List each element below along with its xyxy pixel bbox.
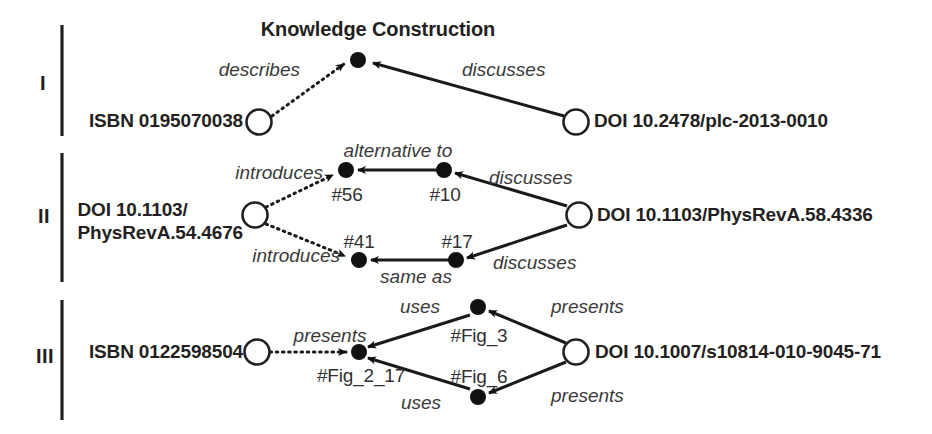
node-label-doi-plc-2013-0010: DOI 10.2478/plc-2013-0010 — [594, 110, 828, 131]
node-label-line-2: PhysRevA.54.4676 — [77, 221, 243, 244]
statement-dot-kc — [350, 52, 366, 68]
edge-label-discusses-upper: discusses — [489, 167, 572, 188]
node-label-doi-s10814-010-9045-71: DOI 10.1007/s10814-010-9045-71 — [595, 341, 881, 362]
statement-label-fig-3: #Fig_3 — [451, 325, 508, 346]
resource-node-isbn-0122598504 — [245, 340, 270, 365]
statement-dot-fig-3 — [470, 299, 486, 315]
resource-node-doi-s10814-010-9045-71 — [564, 340, 589, 365]
node-label-doi-physreva-58-4336: DOI 10.1103/PhysRevA.58.4336 — [597, 204, 873, 225]
edge-label-introduces-upper: introduces — [235, 162, 323, 183]
edge-label-same-as: same as — [380, 266, 452, 287]
node-label-line-1: DOI 10.1103/ — [77, 198, 243, 221]
statement-dot-fig-6 — [470, 389, 486, 405]
statement-dot-41 — [351, 252, 367, 268]
resource-node-doi-plc-2013-0010 — [564, 110, 589, 135]
row-numeral-3: III — [36, 345, 54, 367]
statement-label-56: #56 — [331, 184, 362, 205]
statement-label-fig-2-17: #Fig_2_17 — [317, 365, 405, 386]
edge-label-discusses-1: discusses — [462, 59, 545, 80]
statement-label-fig-6: #Fig_6 — [451, 366, 508, 387]
statement-label-17: #17 — [441, 231, 472, 252]
statement-dot-56 — [338, 162, 354, 178]
node-label-doi-physreva-54-4676: DOI 10.1103/ PhysRevA.54.4676 — [77, 198, 243, 244]
node-label-isbn-0195070038: ISBN 0195070038 — [89, 110, 243, 131]
edge-label-introduces-lower: introduces — [252, 245, 340, 266]
row-numeral-2: II — [38, 205, 50, 227]
edge-label-presents-upper: presents — [551, 296, 624, 317]
statement-dot-10 — [436, 162, 452, 178]
edge-label-discusses-lower: discusses — [493, 252, 576, 273]
statement-label-41: #41 — [343, 231, 374, 252]
node-label-isbn-0122598504: ISBN 0122598504 — [89, 341, 243, 362]
edge-label-presents-dotted: presents — [294, 325, 367, 346]
resource-node-doi-physreva-58-4336 — [567, 203, 592, 228]
resource-node-isbn-0195070038 — [247, 110, 272, 135]
row-numeral-1: I — [40, 72, 46, 94]
statement-dot-fig-2-17 — [351, 344, 367, 360]
edge-label-uses-upper: uses — [400, 296, 440, 317]
resource-node-doi-physreva-54-4676 — [243, 203, 268, 228]
edge-label-presents-lower: presents — [551, 385, 624, 406]
figure-title: Knowledge Construction — [261, 18, 495, 40]
statement-label-10: #10 — [429, 184, 460, 205]
edge-label-alternative-to: alternative to — [344, 140, 453, 161]
edge-label-describes: describes — [219, 59, 300, 80]
edge-label-uses-lower: uses — [401, 392, 441, 413]
diagram-canvas: I Knowledge Construction describes discu… — [0, 0, 932, 434]
